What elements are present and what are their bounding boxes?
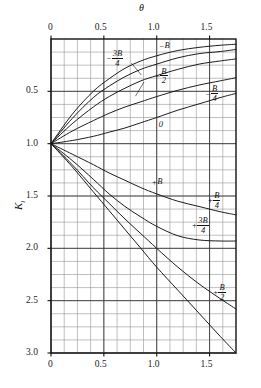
ann-plus-B-4: +B4: [207, 191, 220, 210]
x-tick-bottom-1: 0.5: [95, 359, 107, 369]
ann-minus-B-4-denominator: 4: [211, 94, 218, 103]
y-tick-0: 0.5: [26, 85, 38, 95]
ann-plus-B-2-denominator: 2: [218, 293, 225, 302]
y-axis-label: Kl: [12, 201, 27, 210]
ann-minus-3B-4-denominator: 4: [112, 59, 123, 68]
y-tick-4: 2.5: [26, 295, 38, 305]
ann-minus-B-4: −B4: [205, 84, 218, 103]
ann-minus-B: −B: [159, 41, 170, 50]
ann-minus-3B-4-fraction: 3B4: [112, 49, 123, 68]
x-tick-top-2: 1.0: [148, 22, 160, 32]
y-tick-5: 3.0: [26, 347, 38, 357]
chart-svg: [0, 0, 261, 388]
ann-plus-B-4-fraction: B4: [213, 191, 220, 210]
ann-plus-3B-4-denominator: 4: [197, 226, 208, 235]
ann-minus-B-body: B: [165, 40, 170, 50]
ann-zero-body: 0: [159, 119, 163, 129]
ann-minus-B-2-denominator: 2: [160, 76, 167, 85]
x-tick-bottom-3: 1.5: [201, 359, 213, 369]
y-axis-label-subscript: l: [19, 201, 27, 203]
x-axis-label-top: θ: [139, 2, 144, 13]
ann-zero: 0: [159, 120, 163, 129]
ann-plus-B-body: B: [157, 176, 162, 186]
x-tick-bottom-2: 1.0: [148, 359, 160, 369]
ann-plus-3B-4-fraction: 3B4: [197, 216, 208, 235]
x-tick-top-3: 1.5: [201, 22, 213, 32]
y-tick-3: 2.0: [26, 242, 38, 252]
y-tick-1: 1.0: [26, 138, 38, 148]
ann-minus-3B-4: −3B4: [106, 49, 123, 68]
chart-figure: [0, 0, 261, 388]
ann-plus-B-2-fraction: B2: [218, 283, 225, 302]
y-tick-2: 1.5: [26, 190, 38, 200]
ann-plus-B: +B: [151, 177, 162, 186]
ann-minus-B-4-fraction: B4: [211, 84, 218, 103]
ann-plus-B-4-denominator: 4: [213, 201, 220, 210]
ann-minus-B-2: −B2: [155, 67, 168, 86]
ann-plus-3B-4: +3B4: [192, 216, 209, 235]
x-tick-top-0: 0: [48, 22, 53, 32]
y-axis-label-letter: K: [12, 203, 24, 210]
ann-plus-B-2: +B2: [213, 283, 226, 302]
ann-minus-B-2-fraction: B2: [160, 67, 167, 86]
x-tick-bottom-0: 0: [48, 359, 53, 369]
x-tick-top-1: 0.5: [95, 22, 107, 32]
